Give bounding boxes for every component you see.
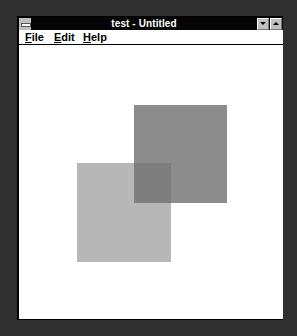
menu-edit[interactable]: Edit bbox=[54, 30, 75, 44]
menu-help-label: elp bbox=[91, 31, 107, 43]
system-menu-icon bbox=[21, 23, 31, 27]
menu-file-label: ile bbox=[32, 31, 44, 43]
system-menu-button[interactable] bbox=[19, 18, 32, 30]
client-canvas[interactable] bbox=[19, 45, 283, 319]
desktop-background: test - Untitled File Edit Help bbox=[0, 0, 297, 336]
maximize-button[interactable] bbox=[270, 18, 282, 30]
menu-bar: File Edit Help bbox=[19, 30, 283, 45]
title-bar[interactable]: test - Untitled bbox=[19, 18, 283, 30]
menu-help[interactable]: Help bbox=[83, 30, 107, 44]
menu-help-mnemonic: H bbox=[83, 31, 91, 43]
arrow-down-icon bbox=[260, 22, 266, 25]
squares-overlap-region bbox=[134, 163, 171, 203]
app-window: test - Untitled File Edit Help bbox=[17, 16, 283, 320]
menu-file-mnemonic: F bbox=[25, 31, 32, 43]
arrow-up-icon bbox=[273, 22, 279, 25]
menu-file[interactable]: File bbox=[25, 30, 44, 44]
minimize-button[interactable] bbox=[257, 18, 269, 30]
window-title: test - Untitled bbox=[32, 18, 256, 30]
menu-edit-label: dit bbox=[61, 31, 74, 43]
